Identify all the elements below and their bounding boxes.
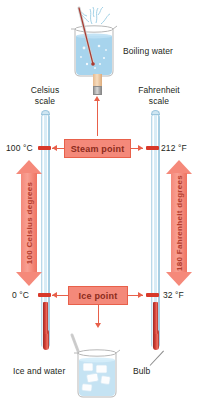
steam-point-right-arrow-icon [138, 145, 143, 151]
steam-point-up-line [97, 100, 98, 136]
celsius-upper-reading: 100 °C [6, 143, 33, 154]
thermometer-scale-diagram: Boiling water Celsius scale Fahrenheit s… [0, 0, 198, 406]
fahrenheit-scale-line2: scale [149, 96, 169, 106]
fahrenheit-upper-reading: 212 °F [161, 143, 187, 154]
fahrenheit-scale-line1: Fahrenheit [138, 85, 180, 95]
celsius-scale-heading: Celsius scale [18, 85, 72, 106]
bulb-label: Bulb [133, 366, 150, 377]
ice-and-water-label: Ice and water [13, 366, 65, 377]
bulb-leader-line [150, 351, 164, 366]
ice-water-beaker [63, 332, 129, 404]
fahrenheit-scale-heading: Fahrenheit scale [128, 85, 190, 106]
fahrenheit-steam-tick [146, 146, 159, 150]
spout-clamp [93, 86, 102, 95]
celsius-lower-reading: 0 °C [12, 290, 29, 301]
steam-point-callout[interactable]: Steam point [64, 139, 131, 158]
ice-point-down-line [98, 305, 99, 325]
fahrenheit-range-arrow-head-down [166, 272, 192, 286]
celsius-range-arrow-head-down [16, 272, 42, 286]
ice-point-callout[interactable]: Ice point [68, 286, 128, 305]
fahrenheit-range-arrow-head-up [166, 160, 192, 174]
steam-point-up-arrow-icon [94, 96, 100, 101]
ice-point-right-arrow-icon [138, 292, 143, 298]
celsius-range-arrow: 100 Celsius degrees [16, 160, 42, 286]
celsius-mercury-column [43, 302, 48, 334]
boiling-water-beaker [62, 2, 124, 80]
steam-point-left-arrow-icon [52, 145, 57, 151]
fahrenheit-lower-reading: 32 °F [163, 290, 184, 301]
celsius-range-label: 100 Celsius degrees [25, 182, 34, 265]
celsius-scale-line2: scale [35, 96, 55, 106]
fahrenheit-mercury-column [153, 302, 158, 334]
celsius-scale-line1: Celsius [31, 85, 60, 95]
fahrenheit-range-label: 180 Fahrenheit degrees [175, 175, 184, 271]
fahrenheit-ice-tick [146, 293, 159, 297]
ice-point-left-arrow-icon [52, 292, 57, 298]
beaker-spout [93, 74, 102, 86]
celsius-range-arrow-head-up [16, 160, 42, 174]
celsius-ice-tick [38, 293, 51, 297]
fahrenheit-range-arrow: 180 Fahrenheit degrees [166, 160, 192, 286]
celsius-steam-tick [38, 146, 51, 150]
water-fill [76, 36, 112, 75]
boiling-water-label: Boiling water [123, 46, 173, 57]
ice-point-down-arrow-icon [95, 323, 101, 328]
